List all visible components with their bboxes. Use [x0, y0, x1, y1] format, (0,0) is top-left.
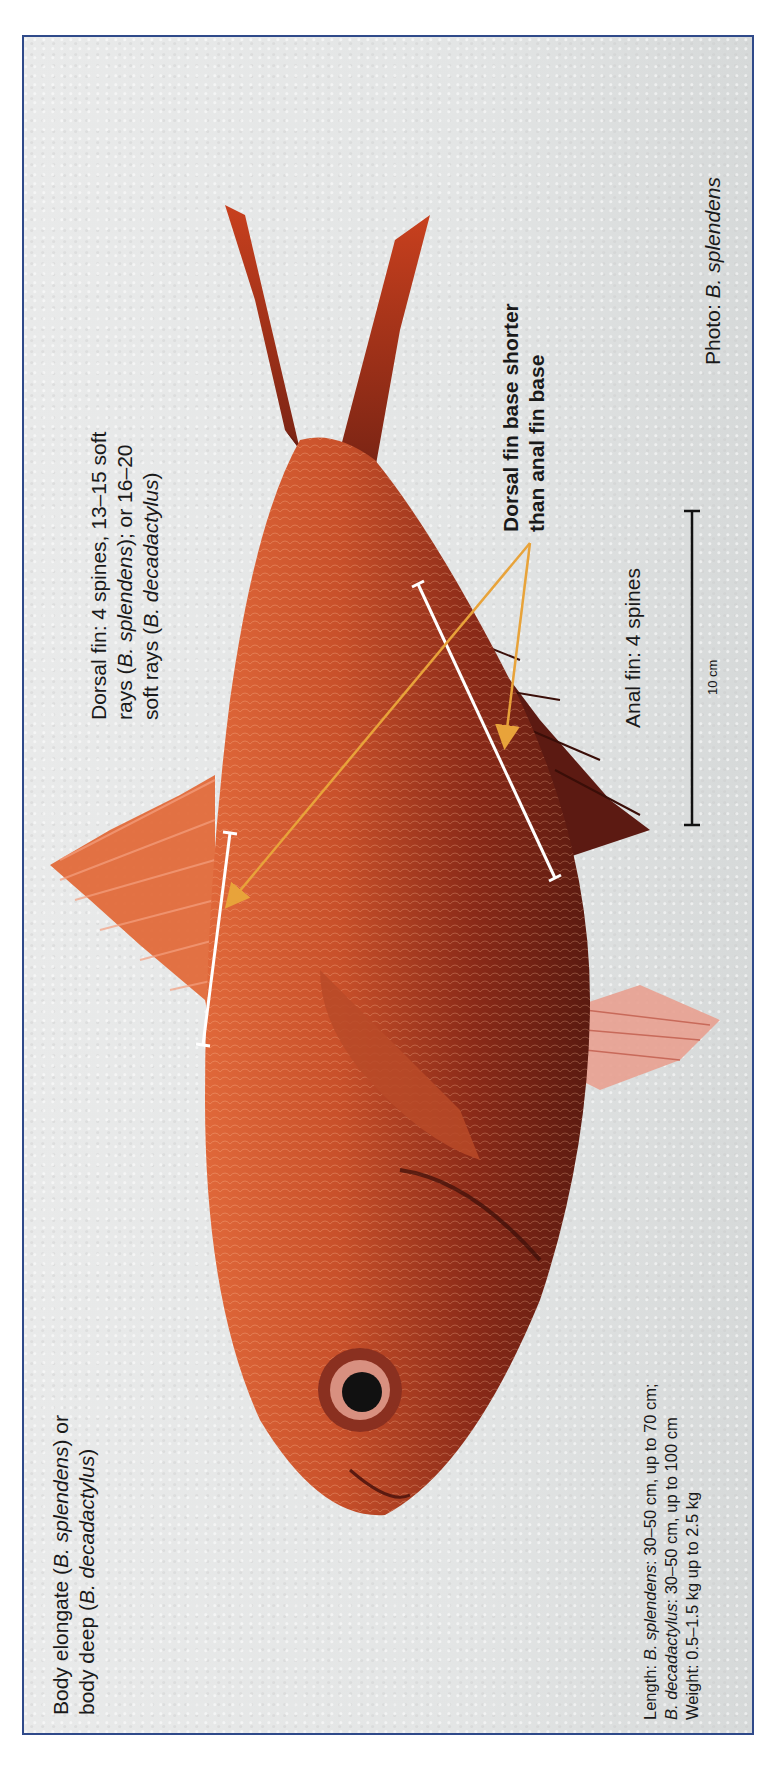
fin-base-comparison-label: Dorsal fin base shorter than anal fin ba…: [498, 303, 550, 532]
eye-pupil: [342, 1372, 382, 1412]
body-shape-label: Body elongate (B. splendens) or body dee…: [48, 1415, 100, 1715]
size-info-label: Length: B. splendens: 30–50 cm, up to 70…: [640, 1383, 703, 1720]
fish-body: [205, 438, 590, 1516]
dorsal-fin: [50, 775, 215, 1050]
anal-fin-label: Anal fin: 4 spines: [620, 568, 646, 728]
pelvic-fin: [580, 985, 720, 1090]
scale-bar-label: 10 cm: [705, 660, 720, 695]
photo-credit: Photo: B. splendens: [700, 177, 726, 365]
caudal-fin: [225, 205, 430, 470]
dorsal-fin-label: Dorsal fin: 4 spines, 13–15 soft rays (B…: [86, 432, 164, 720]
scale-bar: [684, 511, 700, 825]
